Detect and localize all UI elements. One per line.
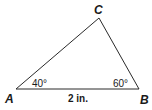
vertex-b-label: B xyxy=(140,93,149,107)
triangle-diagram: A B C 40° 60° 2 in. xyxy=(0,0,152,110)
angle-b-label: 60° xyxy=(113,78,128,89)
side-ab-length-label: 2 in. xyxy=(68,93,88,104)
angle-a-label: 40° xyxy=(32,78,47,89)
vertex-a-label: A xyxy=(4,92,14,106)
triangle-svg: A B C 40° 60° 2 in. xyxy=(0,0,152,110)
vertex-c-label: C xyxy=(94,3,103,17)
